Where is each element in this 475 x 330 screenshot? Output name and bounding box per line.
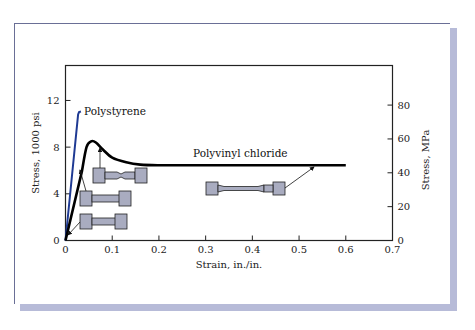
y-right-tick-label: 40 (398, 167, 411, 178)
y-right-tick-label: 20 (398, 201, 411, 212)
polyvinyl-chloride-label: Polyvinyl chloride (193, 147, 288, 159)
y-tick-label: 8 (53, 142, 59, 153)
y-axis-right-title: Stress, MPa (420, 130, 431, 191)
stress-strain-chart: 00.10.20.30.40.50.60.7 04812 020406080 S… (0, 0, 475, 330)
y-tick-label: 4 (53, 188, 59, 199)
specimen-initial-icon (68, 214, 127, 235)
polystyrene-label: Polystyrene (84, 105, 146, 117)
x-tick-label: 0.2 (151, 244, 167, 255)
x-axis-title: Strain, in./in. (196, 259, 263, 270)
x-tick-label: 0 (62, 244, 68, 255)
x-axis-ticks: 00.10.20.30.40.50.60.7 (62, 236, 400, 255)
y-right-tick-label: 0 (398, 235, 404, 246)
x-tick-label: 0.3 (198, 244, 214, 255)
y-right-tick-label: 80 (398, 100, 411, 111)
y-axis-left-title: Stress, 1000 psi (30, 112, 41, 194)
x-tick-label: 0.5 (291, 244, 307, 255)
polystyrene-curve (66, 112, 81, 241)
specimen-drawn-icon (206, 167, 314, 195)
x-tick-label: 0.1 (104, 244, 120, 255)
y-tick-label: 12 (47, 95, 60, 106)
y-axis-right-ticks: 020406080 (388, 100, 411, 246)
x-tick-label: 0.4 (244, 244, 260, 255)
y-right-tick-label: 60 (398, 133, 411, 144)
x-tick-label: 0.6 (338, 244, 354, 255)
y-tick-label: 0 (53, 235, 59, 246)
